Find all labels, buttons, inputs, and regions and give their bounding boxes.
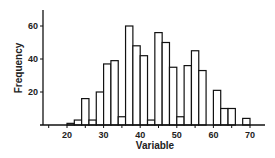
y-axis-label: Frequency xyxy=(13,42,24,93)
x-tick-label: 60 xyxy=(208,130,218,140)
histogram-bar xyxy=(155,33,162,125)
x-tick-label: 50 xyxy=(172,130,182,140)
x-tick-label: 20 xyxy=(62,130,72,140)
histogram-bar xyxy=(74,120,81,125)
histogram-bars xyxy=(67,26,250,125)
histogram-bar xyxy=(169,67,176,125)
histogram-bar xyxy=(228,109,235,126)
histogram-bar xyxy=(148,120,155,125)
histogram-bar xyxy=(140,56,147,125)
y-axis-ticks: 204060 xyxy=(28,21,43,97)
y-tick-label: 40 xyxy=(28,54,38,64)
histogram-bar xyxy=(104,64,111,125)
histogram-bar xyxy=(89,120,96,125)
histogram-chart: 204060 203040506070 Variable Frequency xyxy=(0,0,275,158)
histogram-bar xyxy=(191,51,198,125)
histogram-bar xyxy=(199,71,206,125)
histogram-bar xyxy=(133,46,140,125)
histogram-bar xyxy=(82,99,89,125)
y-tick-label: 60 xyxy=(28,21,38,31)
histogram-bar xyxy=(118,117,125,125)
x-tick-label: 30 xyxy=(99,130,109,140)
x-axis-label: Variable xyxy=(136,140,175,151)
histogram-bar xyxy=(184,66,191,125)
histogram-bar xyxy=(243,118,250,125)
histogram-bar xyxy=(111,61,118,125)
histogram-bar xyxy=(126,26,133,125)
x-axis-ticks: 203040506070 xyxy=(49,125,255,140)
histogram-bar xyxy=(221,109,228,126)
x-tick-label: 40 xyxy=(135,130,145,140)
histogram-bar xyxy=(162,43,169,126)
x-tick-label: 70 xyxy=(245,130,255,140)
histogram-bar xyxy=(213,90,220,125)
y-tick-label: 20 xyxy=(28,87,38,97)
histogram-bar xyxy=(96,92,103,125)
histogram-bar xyxy=(177,117,184,125)
